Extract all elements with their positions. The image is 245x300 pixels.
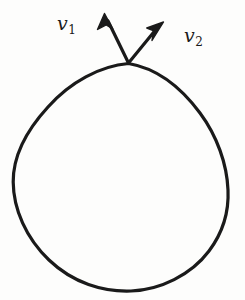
diagram-canvas [0, 0, 245, 300]
vector-v1-arrowhead-icon [98, 14, 113, 30]
vector-v2-label: v2 [184, 26, 203, 48]
vector-v2-symbol: v [184, 24, 195, 46]
vector-v2-subscript: 2 [195, 35, 203, 49]
vector-v2-shaft [129, 30, 156, 63]
closed-curve-path [13, 64, 228, 292]
vector-diagram-figure: v1 v2 [0, 0, 245, 300]
vector-v1-symbol: v [57, 12, 68, 34]
vector-v1-subscript: 1 [68, 23, 76, 37]
vector-v1-label: v1 [57, 14, 76, 36]
